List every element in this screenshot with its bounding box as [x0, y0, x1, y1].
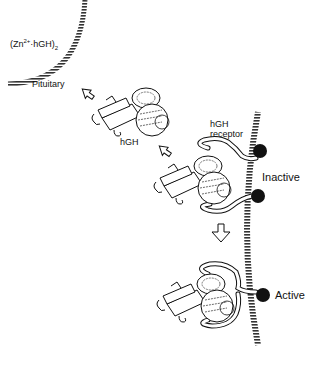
- hgh-molecule: [92, 88, 169, 136]
- receptor-label-line2: receptor: [210, 129, 243, 139]
- pituitary-label: Pituitary: [32, 79, 65, 89]
- complex-label: (Zn2+·hGH)2: [10, 36, 58, 53]
- hgh-label: hGH: [120, 137, 139, 147]
- receptor-label-line1: hGH: [210, 119, 229, 129]
- active-label: Active: [275, 289, 305, 301]
- inactive-label: Inactive: [262, 171, 300, 183]
